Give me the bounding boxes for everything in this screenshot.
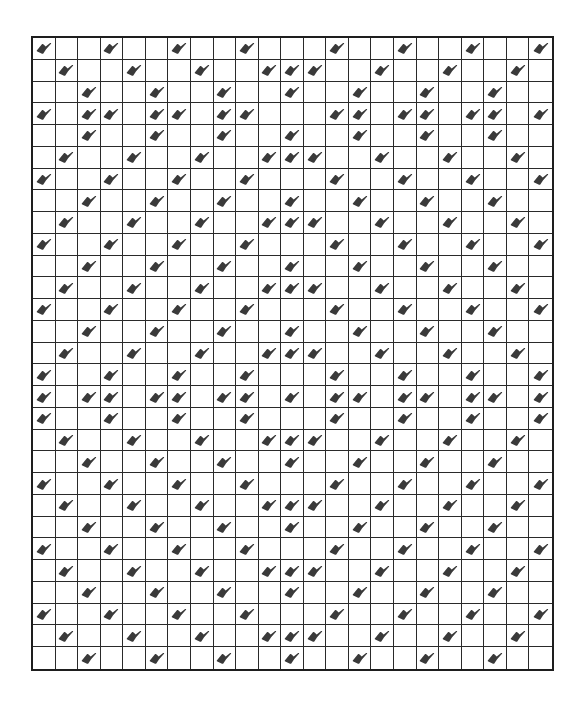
grid-cell — [439, 364, 462, 386]
grid-cell — [236, 169, 259, 191]
grid-cell — [349, 321, 372, 343]
grid-cell — [33, 451, 56, 473]
checkmark-blob-icon — [419, 585, 436, 599]
checkmark-blob-icon — [148, 107, 165, 121]
grid-cell — [462, 495, 485, 517]
grid-cell — [33, 190, 56, 212]
grid-cell — [394, 256, 417, 278]
checkmark-blob-icon — [171, 607, 188, 621]
grid-cell — [168, 582, 191, 604]
grid-cell — [371, 625, 394, 647]
grid-cell — [214, 38, 237, 60]
grid-cell — [56, 473, 79, 495]
grid-cell — [349, 82, 372, 104]
grid-cell — [101, 386, 124, 408]
checkmark-blob-icon — [238, 302, 255, 316]
grid-cell — [191, 408, 214, 430]
grid-cell — [191, 125, 214, 147]
grid-cell — [462, 277, 485, 299]
grid-cell — [371, 451, 394, 473]
grid-cell — [371, 212, 394, 234]
checkmark-blob-icon — [103, 107, 120, 121]
grid-cell — [462, 408, 485, 430]
grid-cell — [56, 538, 79, 560]
grid-cell — [484, 451, 507, 473]
grid-cell — [281, 256, 304, 278]
grid-cell — [281, 147, 304, 169]
grid-cell — [439, 647, 462, 669]
grid-cell — [371, 190, 394, 212]
grid-cell — [56, 299, 79, 321]
grid-cell — [439, 256, 462, 278]
grid-cell — [394, 517, 417, 539]
grid-cell — [394, 647, 417, 669]
grid-cell — [214, 82, 237, 104]
grid-cell — [168, 408, 191, 430]
grid-cell — [484, 169, 507, 191]
checkmark-blob-icon — [351, 651, 368, 665]
grid-cell — [529, 147, 552, 169]
grid-cell — [371, 103, 394, 125]
grid-cell — [33, 430, 56, 452]
grid-cell — [259, 103, 282, 125]
grid-cell — [123, 190, 146, 212]
grid-cell — [78, 82, 101, 104]
grid-cell — [146, 538, 169, 560]
grid-cell — [349, 256, 372, 278]
grid-cell — [326, 343, 349, 365]
grid-cell — [507, 625, 530, 647]
grid-cell — [462, 82, 485, 104]
grid-cell — [236, 103, 259, 125]
grid-cell — [146, 343, 169, 365]
grid-cell — [484, 125, 507, 147]
checkmark-blob-icon — [329, 390, 346, 404]
grid-cell — [259, 169, 282, 191]
grid-cell — [507, 430, 530, 452]
grid-cell — [462, 169, 485, 191]
grid-cell — [507, 60, 530, 82]
grid-cell — [123, 517, 146, 539]
checkmark-blob-icon — [464, 607, 481, 621]
checkmark-blob-icon — [396, 172, 413, 186]
checkmark-blob-icon — [419, 651, 436, 665]
checkmark-blob-icon — [509, 346, 526, 360]
grid-cell — [101, 321, 124, 343]
checkmark-blob-icon — [487, 259, 504, 273]
checkmark-blob-icon — [329, 542, 346, 556]
grid-cell — [191, 299, 214, 321]
grid-cell — [146, 604, 169, 626]
grid-cell — [326, 38, 349, 60]
grid-cell — [56, 212, 79, 234]
grid-cell — [191, 495, 214, 517]
grid-cell — [326, 125, 349, 147]
checkmark-blob-icon — [374, 215, 391, 229]
grid-cell — [349, 234, 372, 256]
grid-cell — [259, 256, 282, 278]
grid-cell — [33, 364, 56, 386]
grid-cell — [214, 277, 237, 299]
grid-cell — [56, 625, 79, 647]
grid-cell — [78, 125, 101, 147]
grid-cell — [371, 60, 394, 82]
grid-cell — [259, 299, 282, 321]
checkmark-blob-icon — [193, 150, 210, 164]
checkmark-blob-icon — [103, 411, 120, 425]
grid-cell — [349, 169, 372, 191]
grid-cell — [417, 321, 440, 343]
grid-cell — [462, 647, 485, 669]
grid-cell — [101, 430, 124, 452]
grid-cell — [236, 364, 259, 386]
checkmark-blob-icon — [351, 390, 368, 404]
grid-cell — [281, 582, 304, 604]
grid-cell — [484, 408, 507, 430]
checkmark-blob-icon — [35, 607, 52, 621]
grid-cell — [484, 212, 507, 234]
grid-cell — [33, 386, 56, 408]
grid-cell — [304, 560, 327, 582]
grid-cell — [304, 60, 327, 82]
checkmark-blob-icon — [396, 607, 413, 621]
grid-cell — [281, 647, 304, 669]
grid-cell — [56, 364, 79, 386]
grid-cell — [507, 517, 530, 539]
checkmark-blob-icon — [374, 63, 391, 77]
